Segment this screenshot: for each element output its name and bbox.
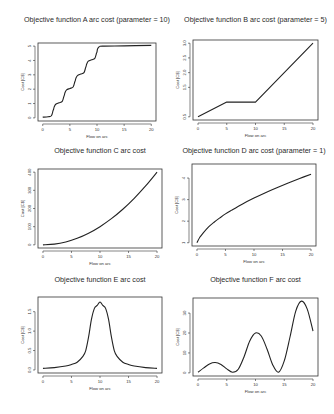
x-axis-label: Flow on arc	[86, 134, 108, 139]
y-axis-label: Cost [C$]	[174, 196, 179, 213]
chart-panel-c: Objective function C arc cost05101520Flo…	[20, 146, 162, 266]
x-tick-label: 20	[149, 127, 154, 132]
x-tick-label: 0	[197, 126, 200, 131]
y-axis: 0102030	[182, 310, 190, 374]
chart-title: Objective function D arc cost (parameter…	[182, 146, 325, 155]
x-tick-label: 10	[98, 379, 103, 384]
plot-frame	[38, 43, 156, 121]
chart-panel-a: Objective function A arc cost (parameter…	[20, 15, 170, 139]
x-tick-label: 0	[197, 382, 200, 387]
x-tick-label: 0	[42, 254, 45, 259]
y-tick-label: 0.0	[27, 366, 32, 372]
y-tick-label: 2	[27, 87, 32, 90]
chart-panel-d: Objective function D arc cost (parameter…	[174, 146, 326, 264]
y-tick-label: 0.5	[27, 347, 32, 353]
x-axis-label: Flow on arc	[243, 259, 265, 264]
y-axis: 0.51.52.02.53.0	[182, 40, 190, 120]
x-tick-label: 10	[98, 254, 103, 259]
y-axis-label: Cost [C$]	[175, 328, 180, 345]
y-tick-label: 4	[181, 176, 186, 179]
y-axis-label: Cost [C$]	[20, 326, 25, 343]
x-tick-label: 5	[226, 126, 229, 131]
chart-title: Objective function A arc cost (parameter…	[24, 15, 170, 24]
y-tick-label: 20	[182, 330, 187, 335]
x-axis-label: Flow on arc	[245, 133, 267, 138]
x-axis: 05101520	[197, 123, 316, 131]
y-tick-label: 2	[181, 219, 186, 222]
x-tick-label: 20	[309, 252, 314, 257]
plot-frame	[38, 297, 162, 373]
plot-frame	[193, 298, 318, 376]
y-tick-label: 4	[27, 59, 32, 62]
chart-panel-f: Objective function F arc cost05101520Flo…	[175, 275, 318, 394]
y-axis: 012345	[27, 44, 35, 119]
chart-grid: Objective function A arc cost (parameter…	[0, 0, 334, 414]
y-axis: 0100200300400	[27, 168, 35, 246]
chart-panel-b: Objective function B arc cost (parameter…	[175, 15, 327, 138]
y-tick-label: 3.0	[182, 40, 187, 46]
y-tick-label: 2.5	[182, 54, 187, 60]
x-tick-label: 10	[95, 127, 100, 132]
y-tick-label: 3	[27, 73, 32, 76]
y-axis: 0.00.51.01.5	[27, 308, 35, 373]
x-tick-label: 0	[42, 127, 45, 132]
y-tick-label: 10	[182, 350, 187, 355]
y-tick-label: 1.0	[27, 328, 32, 334]
chart-title: Objective function C arc cost	[54, 146, 145, 155]
x-axis-label: Flow on arc	[89, 386, 111, 391]
x-tick-label: 10	[253, 382, 258, 387]
x-tick-label: 5	[70, 254, 73, 259]
x-tick-label: 15	[280, 252, 285, 257]
y-tick-label: 0	[182, 371, 187, 374]
chart-title: Objective function E arc cost	[54, 275, 145, 284]
plot-frame	[192, 164, 316, 246]
chart-title: Objective function F arc cost	[210, 275, 301, 284]
cost-curve	[198, 301, 313, 372]
y-tick-label: 30	[182, 310, 187, 315]
x-tick-label: 20	[311, 126, 316, 131]
x-tick-label: 5	[69, 127, 72, 132]
x-tick-label: 15	[126, 254, 131, 259]
x-tick-label: 15	[282, 382, 287, 387]
y-tick-label: 0.5	[182, 113, 187, 119]
y-tick-label: 1.5	[182, 84, 187, 90]
cost-curve	[43, 302, 157, 368]
y-axis-label: Cost [C$]	[175, 71, 180, 88]
x-tick-label: 15	[282, 126, 287, 131]
x-axis: 05101520	[196, 249, 314, 257]
x-axis-label: Flow on arc	[89, 261, 111, 266]
x-tick-label: 5	[226, 382, 229, 387]
y-tick-label: 2.0	[182, 69, 187, 75]
y-tick-label: 0	[27, 116, 32, 119]
x-tick-label: 15	[122, 127, 127, 132]
x-tick-label: 5	[70, 379, 73, 384]
cost-curve	[198, 43, 313, 117]
plot-frame	[193, 40, 318, 120]
chart-panel-e: Objective function E arc cost05101520Flo…	[20, 275, 162, 391]
x-tick-label: 0	[196, 252, 199, 257]
x-tick-label: 5	[224, 252, 227, 257]
y-tick-label: 5	[27, 44, 32, 47]
y-tick-label: 1	[181, 241, 186, 244]
x-tick-label: 10	[252, 252, 257, 257]
x-axis: 05101520	[42, 124, 155, 132]
y-tick-label: 3	[181, 198, 186, 201]
x-axis: 05101520	[42, 251, 160, 259]
cost-curve	[197, 174, 311, 243]
chart-title: Objective function B arc cost (parameter…	[184, 15, 327, 24]
x-tick-label: 20	[155, 254, 160, 259]
x-tick-label: 0	[42, 379, 45, 384]
y-axis: 1234	[181, 176, 189, 244]
y-tick-label: 400	[27, 168, 32, 176]
y-axis-label: Cost [C$]	[20, 200, 25, 217]
y-tick-label: 200	[27, 204, 32, 212]
y-tick-label: 100	[27, 223, 32, 231]
cost-curve	[43, 45, 152, 117]
plot-frame	[38, 169, 162, 248]
y-tick-label: 1	[27, 102, 32, 105]
x-axis-label: Flow on arc	[245, 389, 267, 394]
x-axis: 05101520	[197, 379, 316, 387]
y-tick-label: 0	[27, 243, 32, 246]
cost-curve	[43, 172, 157, 245]
x-tick-label: 15	[126, 379, 131, 384]
